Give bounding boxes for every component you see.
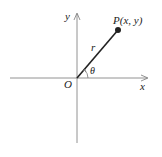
angle-label: θ [90, 65, 95, 76]
radius-label: r [91, 41, 96, 53]
angle-arc [85, 70, 89, 78]
x-axis-label: x [139, 80, 145, 92]
y-axis-label: y [64, 10, 70, 22]
point-label: P(x, y) [112, 14, 143, 27]
polar-diagram: x y O P(x, y) r θ [0, 0, 162, 157]
point-p [115, 27, 121, 33]
origin-label: O [64, 78, 72, 90]
